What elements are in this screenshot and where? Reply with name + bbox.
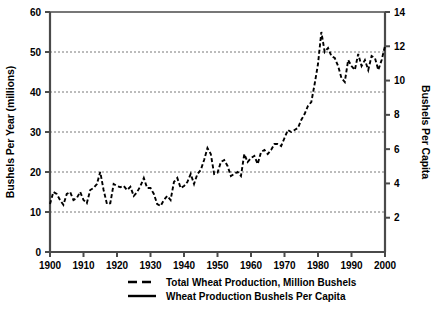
cropped-caption-text <box>6 303 306 313</box>
right-axis-title: Bushels Per Capita <box>420 85 432 179</box>
left-axis-tick-label: 20 <box>30 167 42 178</box>
right-axis-tick-label: 14 <box>394 7 406 18</box>
x-axis-tick-label: 1950 <box>206 260 229 271</box>
right-axis-tick-label: 10 <box>394 75 406 86</box>
x-axis-tick-label: 1920 <box>106 260 129 271</box>
right-axis-tick-label: 6 <box>394 144 400 155</box>
x-axis-tick-label: 1970 <box>273 260 296 271</box>
left-axis-tick-label: 10 <box>30 207 42 218</box>
right-axis-tick-label: 2 <box>394 212 400 223</box>
left-axis-tick-label: 50 <box>30 47 42 58</box>
x-axis-tick-label: 2000 <box>374 260 397 271</box>
x-axis-tick-label: 1960 <box>240 260 263 271</box>
right-axis-tick-label: 12 <box>394 41 406 52</box>
x-axis-tick-label: 1940 <box>173 260 196 271</box>
left-axis-tick-label: 60 <box>30 7 42 18</box>
x-axis-tick-label: 1910 <box>72 260 95 271</box>
x-axis-tick-label: 1930 <box>139 260 162 271</box>
left-axis-tick-label: 40 <box>30 87 42 98</box>
left-axis-title: Bushels Per Year (millions) <box>4 66 16 199</box>
legend-label: Total Wheat Production, Million Bushels <box>166 277 357 288</box>
x-axis-tick-label: 1900 <box>39 260 62 271</box>
right-axis-tick-label: 8 <box>394 109 400 120</box>
left-axis-tick-label: 30 <box>30 127 42 138</box>
chart-figure: 0102030405060246810121419001910192019301… <box>0 0 434 314</box>
left-axis-tick-label: 0 <box>35 247 41 258</box>
x-axis-tick-label: 1980 <box>307 260 330 271</box>
right-axis-tick-label: 4 <box>394 178 400 189</box>
wheat-production-line-chart: 0102030405060246810121419001910192019301… <box>0 0 434 314</box>
legend-label: Wheat Production Bushels Per Capita <box>166 291 346 302</box>
x-axis-tick-label: 1990 <box>340 260 363 271</box>
